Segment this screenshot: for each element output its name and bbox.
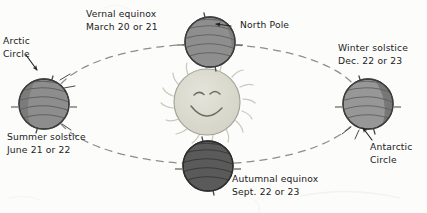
label-vernal-equinox: Vernal equinox March 20 or 21 (86, 8, 159, 32)
earth-summer-solstice (11, 74, 77, 133)
label-antarctic-circle: Antarctic Circle (370, 141, 416, 165)
label-arctic-circle: Arctic Circle (3, 35, 33, 59)
earth-winter-solstice (335, 76, 401, 139)
seasons-diagram: Vernal equinox March 20 or 21 North Pole… (0, 0, 427, 213)
label-autumnal-equinox: Autumnal equinox Sept. 22 or 23 (232, 173, 321, 197)
antarctic-circle-arrow (363, 128, 372, 140)
label-north-pole: North Pole (240, 19, 289, 30)
label-winter-solstice: Winter solstice Dec. 22 or 23 (338, 42, 411, 66)
label-summer-solstice: Summer solstice June 21 or 22 (6, 131, 89, 155)
earth-vernal-equinox (177, 13, 243, 71)
diagram-canvas: Vernal equinox March 20 or 21 North Pole… (0, 0, 427, 213)
sun-disc (174, 69, 240, 135)
sun (161, 57, 255, 145)
